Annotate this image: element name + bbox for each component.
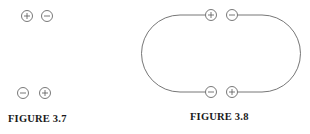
positive-charge-icon (22, 11, 33, 22)
wire-left-loop (142, 15, 206, 92)
figure-3-7-diagram (18, 11, 53, 99)
negative-charge-icon (42, 11, 53, 22)
figure-3-7-caption: FIGURE 3.7 (8, 113, 67, 124)
negative-charge-icon (206, 87, 217, 98)
positive-charge-icon (206, 10, 217, 21)
figure-3-8-caption: FIGURE 3.8 (190, 111, 249, 122)
negative-charge-icon (227, 10, 238, 21)
wire-right-loop (238, 15, 301, 92)
negative-charge-icon (18, 88, 29, 99)
figure-3-8-diagram (142, 10, 301, 98)
positive-charge-icon (40, 88, 51, 99)
positive-charge-icon (227, 87, 238, 98)
